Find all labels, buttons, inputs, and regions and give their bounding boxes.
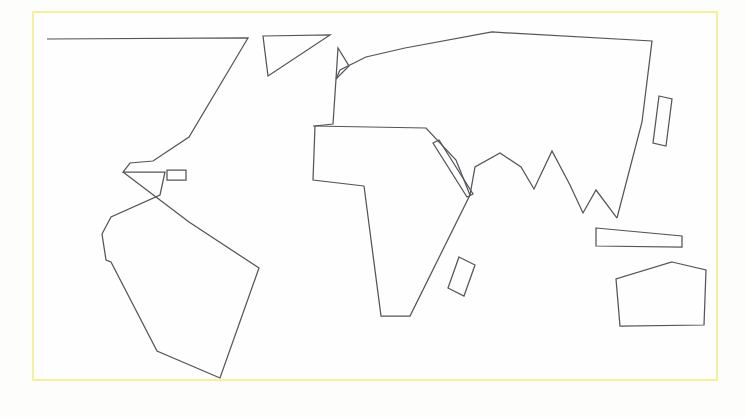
world-map-drawing [0,0,746,417]
shape-africa [313,126,470,316]
shape-south-america [102,172,259,378]
shape-southern-asia-zigzag [470,151,617,218]
shape-madagascar [448,257,475,296]
shape-indonesia-strip [596,228,682,247]
shape-eurasia-west-coast [313,79,364,186]
shape-north-america [47,38,248,234]
screenshot-canvas [0,0,746,417]
shape-caribbean-islet [167,170,186,180]
shape-greenland [263,35,330,76]
shape-japan [653,96,672,146]
shape-australia [616,262,706,326]
shape-eurasia [336,32,652,218]
